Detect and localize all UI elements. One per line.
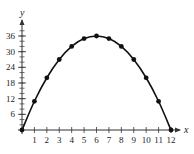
x-tick-label: 7 [107,135,112,145]
data-point [94,34,99,39]
x-tick-label: 9 [132,135,137,145]
y-tick-label: 36 [6,31,16,41]
data-point [44,75,49,80]
y-tick-label: 12 [6,94,15,104]
data-point [131,57,136,62]
x-tick-label: 8 [119,135,124,145]
y-axis-label: y [19,7,25,18]
data-point [107,36,112,41]
x-tick-label: 4 [69,135,74,145]
x-tick-label: 12 [167,135,176,145]
x-axis-label: x [183,124,189,135]
parabola-chart: 12345678910111261218243036 x y [0,0,194,154]
data-points [20,34,174,133]
x-tick-label: 5 [82,135,87,145]
data-point [156,99,161,104]
data-point [20,128,25,133]
tick-labels: 12345678910111261218243036 [6,31,176,145]
x-tick-label: 11 [154,135,163,145]
data-point [169,128,174,133]
data-point [144,75,149,80]
y-tick-label: 6 [11,109,16,119]
data-curve [22,36,171,130]
y-tick-label: 18 [6,78,16,88]
data-point [82,36,87,41]
x-tick-label: 3 [57,135,62,145]
data-point [119,44,124,49]
data-point [57,57,62,62]
y-tick-label: 24 [6,62,16,72]
x-tick-label: 6 [94,135,99,145]
x-tick-label: 10 [142,135,152,145]
y-tick-label: 30 [6,47,16,57]
x-tick-label: 1 [32,135,37,145]
data-point [32,99,37,104]
x-arrow-icon [175,128,181,133]
y-arrow-icon [20,19,25,25]
x-tick-label: 2 [45,135,50,145]
data-point [69,44,74,49]
